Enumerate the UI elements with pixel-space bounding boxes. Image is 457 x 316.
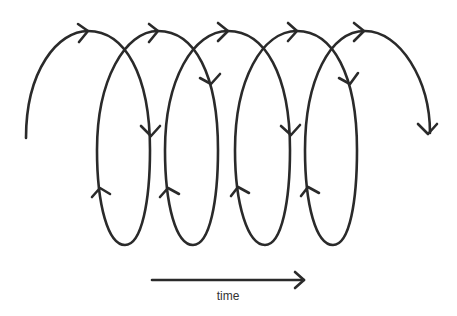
- time-label: time: [217, 289, 240, 303]
- spiral-diagram: time: [0, 0, 457, 316]
- arrow-up-icon: [301, 187, 319, 196]
- up-arrowheads: [92, 187, 319, 197]
- spiral-curve: [26, 31, 430, 245]
- time-arrow: [152, 272, 304, 288]
- arrow-up-icon: [231, 187, 249, 196]
- arrow-up-icon: [160, 188, 179, 197]
- arrow-down-icon: [418, 124, 437, 134]
